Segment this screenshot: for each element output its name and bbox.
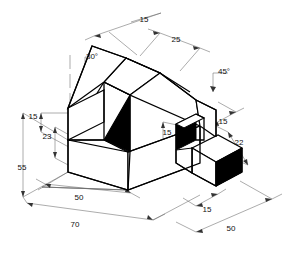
technical-drawing-svg: 15 25 30° 45° 15 23 55 15 15 22 50 70 15…	[0, 0, 292, 261]
dim-label-mid-15: 15	[163, 128, 172, 137]
dim-label-left-15: 15	[29, 112, 38, 121]
dim-label-angle-45: 45°	[218, 67, 230, 76]
dim-label-bottom-left-50: 50	[75, 193, 84, 202]
dim-label-bottom-right-50: 50	[227, 224, 236, 233]
dim-label-left-55: 55	[18, 163, 27, 172]
dim-label-bottom-right-15: 15	[203, 205, 212, 214]
dim-label-top-right-25: 25	[172, 35, 181, 44]
drawing-background	[0, 0, 292, 261]
dim-label-angle-30: 30°	[86, 52, 98, 61]
isometric-drawing-canvas: 15 25 30° 45° 15 23 55 15 15 22 50 70 15…	[0, 0, 292, 261]
dim-label-top-left-15: 15	[140, 15, 149, 24]
dim-label-left-23: 23	[43, 132, 52, 141]
dim-label-bottom-70: 70	[71, 220, 80, 229]
dim-label-right-15: 15	[219, 117, 228, 126]
dim-label-right-22: 22	[235, 138, 244, 147]
